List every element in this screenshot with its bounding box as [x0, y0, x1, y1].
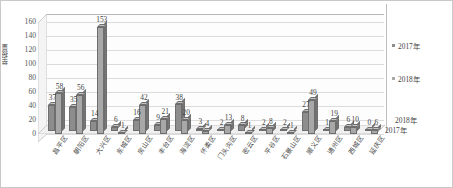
bar-front-face — [371, 130, 378, 134]
bar — [238, 125, 245, 131]
bar-front-face — [160, 119, 167, 134]
bar-group: 921 — [152, 14, 173, 134]
y-tick-label: 60 — [28, 88, 36, 96]
bar-value-label: 13 — [225, 114, 232, 121]
bar-value-label: 8 — [269, 118, 273, 125]
bar-group: 61 — [109, 14, 130, 134]
legend-swatch-icon — [392, 44, 395, 47]
x-category-label: 朝阳区 — [72, 134, 90, 155]
y-tick-label: 120 — [25, 46, 36, 54]
bar — [224, 125, 231, 134]
bar — [329, 121, 336, 134]
bar-group: 28 — [257, 14, 278, 134]
bar-front-face — [287, 132, 294, 134]
plot-area: 3758355614153611642921382034213812821274… — [38, 14, 384, 134]
bar — [181, 120, 188, 134]
x-category-label: 大兴区 — [94, 134, 112, 155]
x-category-label: 房山区 — [136, 134, 154, 155]
bar-group: 1642 — [131, 14, 152, 134]
plot-legend-divider — [386, 4, 387, 132]
x-category-label: 丰台区 — [157, 134, 175, 155]
bar — [287, 133, 294, 134]
bar — [350, 127, 357, 134]
bar-group: 06 — [363, 14, 384, 134]
bar-front-face — [118, 132, 125, 134]
bar-group: 14153 — [88, 14, 109, 134]
y-tick-label: 160 — [25, 18, 36, 26]
bar-front-face — [245, 132, 252, 134]
bar-value-label: 58 — [56, 83, 63, 90]
bar-value-label: 1 — [325, 119, 329, 126]
y-tick-label: 20 — [28, 116, 36, 124]
bar-front-face — [181, 120, 188, 134]
bar-front-face — [280, 129, 287, 131]
x-category-label: 延庆区 — [368, 134, 386, 155]
bar-value-label: 21 — [161, 108, 168, 115]
bar-front-face — [329, 121, 336, 134]
bar-group: 3820 — [173, 14, 194, 134]
bar — [280, 130, 287, 131]
bar-front-face — [266, 128, 273, 134]
x-category-label: 顺义区 — [305, 134, 323, 155]
legend-item-2017: 2017年 — [392, 40, 450, 51]
x-category-label: 西城区 — [347, 134, 365, 155]
x-category-label: 密云区 — [241, 134, 259, 155]
bar-front-face — [224, 125, 231, 134]
y-tick-label: 100 — [25, 60, 36, 68]
bar-value-label: 37 — [49, 94, 56, 101]
bar-group: 610 — [342, 14, 363, 134]
bar-group: 3556 — [67, 14, 88, 134]
bar — [266, 128, 273, 134]
bar-value-label: 19 — [330, 110, 337, 117]
legend-swatch-icon — [392, 77, 395, 80]
chart-legend: 2017年 2018年 — [392, 40, 450, 106]
bar-value-label: 16 — [133, 109, 140, 116]
x-category-label: 怀柔区 — [199, 134, 217, 155]
bar-group: 119 — [321, 14, 342, 134]
bar-side-face — [104, 21, 107, 131]
bar-value-label: 6 — [114, 116, 118, 123]
bar-front-face — [238, 125, 245, 131]
bar-value-label: 3 — [199, 118, 203, 125]
y-tick-label: 40 — [28, 102, 36, 110]
x-category-label: 海淀区 — [178, 134, 196, 155]
bar-front-face — [111, 127, 118, 131]
y-axis-title: 举报量 — [2, 44, 12, 65]
x-axis-category-labels: 昌平区朝阳区大兴区东城区房山区丰台区海淀区怀柔区门头沟区密云区平谷区石景山区顺义… — [38, 134, 388, 188]
y-tick-label: 80 — [28, 74, 36, 82]
x-category-label: 昌平区 — [51, 134, 69, 155]
bar-group: 2749 — [300, 14, 321, 134]
bar — [111, 127, 118, 131]
bar — [160, 119, 167, 134]
bar-value-label: 6 — [346, 116, 350, 123]
bar-value-label: 20 — [183, 109, 190, 116]
legend-item-2018: 2018年 — [392, 73, 450, 84]
bar-front-face — [350, 127, 357, 134]
bar-value-label: 0 — [368, 119, 372, 126]
bar-value-label: 9 — [156, 114, 160, 121]
bar-group: 81 — [236, 14, 257, 134]
depth-axis-label-2018: 2018年 — [395, 116, 417, 126]
bar-value-label: 8 — [241, 115, 245, 122]
bar — [202, 131, 209, 134]
bar-side-face — [62, 87, 65, 131]
x-category-label: 门头沟区 — [216, 134, 238, 161]
bar-value-label: 42 — [140, 94, 147, 101]
bar-value-label: 1 — [248, 122, 252, 129]
bar-value-label: 4 — [206, 120, 210, 127]
bar-value-label: 6 — [375, 119, 379, 126]
depth-axis-labels: 2018年 2017年 — [395, 116, 417, 136]
bar-value-label: 38 — [176, 94, 183, 101]
chart-container: 举报量 160140120100806040200 37583556141536… — [0, 0, 453, 188]
x-category-label: 通州区 — [326, 134, 344, 155]
x-category-label: 东城区 — [115, 134, 133, 155]
bar-value-label: 2 — [262, 119, 266, 126]
bar-value-label: 27 — [302, 101, 309, 108]
bar — [371, 130, 378, 134]
legend-label: 2017年 — [398, 40, 420, 51]
bar-series-layer: 3758355614153611642921382034213812821274… — [46, 14, 384, 134]
bar-group: 213 — [215, 14, 236, 134]
bar-group: 21 — [278, 14, 299, 134]
bar-group: 3758 — [46, 14, 67, 134]
bar-value-label: 35 — [70, 96, 77, 103]
